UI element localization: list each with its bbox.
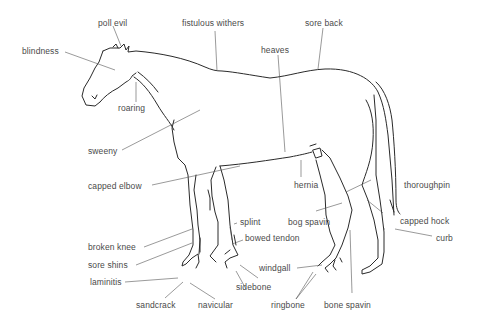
label-laminitis: laminitis	[90, 277, 122, 287]
label-windgall: windgall	[259, 263, 291, 273]
horse-hindleg-far-outline	[362, 95, 384, 274]
horse-ailments-diagram: poll evil fistulous withers sore back bl…	[0, 0, 479, 327]
horse-foreleg-back-outline	[210, 166, 238, 268]
horse-outline-drawing	[0, 0, 479, 327]
label-bog-spavin: bog spavin	[288, 217, 330, 227]
label-poll-evil: poll evil	[98, 18, 127, 28]
horse-head-outline	[103, 44, 394, 215]
label-hernia: hernia	[294, 180, 318, 190]
horse-face-outline	[82, 51, 136, 106]
horse-chest-outline	[172, 120, 200, 268]
label-bowed-tendon: bowed tendon	[245, 233, 300, 243]
label-ringbone: ringbone	[271, 300, 305, 310]
label-navicular: navicular	[198, 300, 233, 310]
label-capped-elbow: capped elbow	[88, 181, 142, 191]
label-fistulous-withers: fistulous withers	[182, 18, 244, 28]
label-sandcrack: sandcrack	[136, 300, 176, 310]
label-blindness: blindness	[22, 46, 59, 56]
label-sore-shins: sore shins	[88, 260, 128, 270]
horse-belly-outline	[220, 152, 312, 166]
label-roaring: roaring	[118, 103, 145, 113]
horse-hindleg-near-outline	[316, 150, 352, 272]
label-thoroughpin: thoroughpin	[404, 180, 450, 190]
label-broken-knee: broken knee	[88, 242, 136, 252]
label-bone-spavin: bone spavin	[324, 300, 371, 310]
label-sore-back: sore back	[305, 18, 343, 28]
label-sweeny: sweeny	[88, 146, 117, 156]
label-sidebone: sidebone	[236, 282, 271, 292]
label-heaves: heaves	[261, 45, 289, 55]
horse-sheath-outline	[310, 144, 322, 158]
horse-tail-outline	[376, 82, 400, 214]
label-curb: curb	[436, 233, 453, 243]
label-capped-hock: capped hock	[400, 216, 449, 226]
label-splint: splint	[240, 217, 260, 227]
